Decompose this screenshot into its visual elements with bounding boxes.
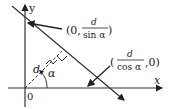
svg-text:d: d xyxy=(127,49,133,59)
svg-text:d: d xyxy=(91,17,97,27)
line-normal-form-diagram: y x 0 d α (0, d sin α ) ( d cos α ,0) xyxy=(0,0,169,109)
svg-text:cos α: cos α xyxy=(117,62,141,72)
svg-text:sin α: sin α xyxy=(83,30,105,40)
perpendicular-segment xyxy=(25,51,62,88)
angle-arc xyxy=(41,72,47,88)
perpendicular-label: d xyxy=(33,63,40,76)
x-intercept-label: ( d cos α ,0) xyxy=(110,49,160,72)
svg-text:,0): ,0) xyxy=(145,56,160,69)
origin-label: 0 xyxy=(27,91,33,102)
angle-label: α xyxy=(48,67,56,80)
svg-text:(0,: (0, xyxy=(66,24,81,37)
zigzag-mark xyxy=(46,60,57,64)
y-axis-label: y xyxy=(28,2,36,15)
y-intercept-label: (0, d sin α ) xyxy=(66,17,112,40)
diagonal-line xyxy=(12,6,124,100)
svg-text:(: ( xyxy=(110,56,114,69)
x-intercept-pointer xyxy=(88,66,110,86)
x-axis-label: x xyxy=(154,74,161,87)
right-angle-mark xyxy=(57,56,67,61)
svg-text:): ) xyxy=(108,24,112,37)
y-intercept-pointer xyxy=(28,23,62,29)
